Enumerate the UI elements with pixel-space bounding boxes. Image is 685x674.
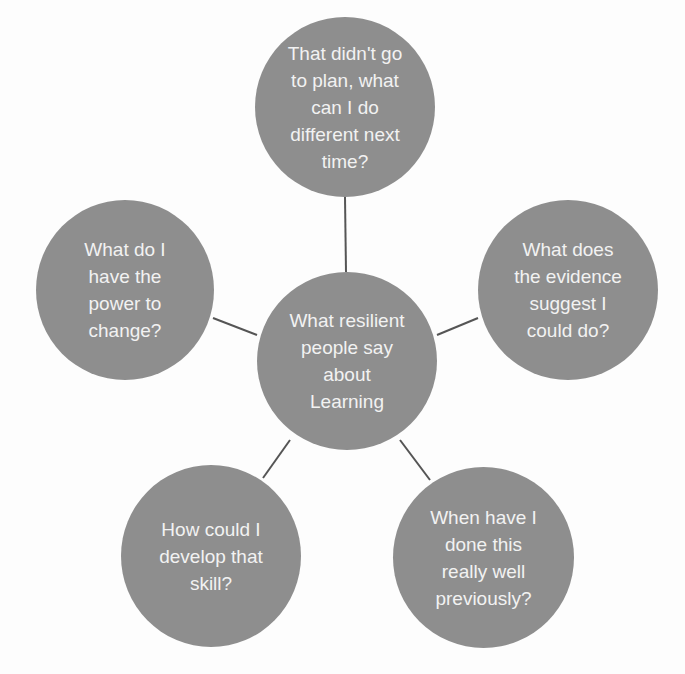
node-center-label: What resilient people say about Learning (289, 307, 404, 415)
connector-top (345, 197, 346, 272)
node-top-label: That didn't go to plan, what can I do di… (288, 40, 403, 175)
node-left: What do I have the power to change? (36, 200, 214, 380)
node-top: That didn't go to plan, what can I do di… (255, 17, 435, 197)
node-center: What resilient people say about Learning (257, 272, 437, 450)
connector-bottom-right (400, 440, 430, 480)
node-right-label: What does the evidence suggest I could d… (514, 236, 622, 344)
connector-right (437, 318, 478, 335)
node-left-label: What do I have the power to change? (84, 236, 165, 344)
node-bottom-left-label: How could I develop that skill? (159, 516, 263, 597)
connector-bottom-left (263, 440, 290, 478)
node-bottom-left: How could I develop that skill? (121, 465, 301, 647)
connector-left (213, 318, 257, 335)
node-bottom-right-label: When have I done this really well previo… (430, 504, 537, 612)
resilience-diagram: That didn't go to plan, what can I do di… (0, 0, 685, 674)
node-right: What does the evidence suggest I could d… (478, 200, 658, 380)
node-bottom-right: When have I done this really well previo… (393, 467, 574, 648)
